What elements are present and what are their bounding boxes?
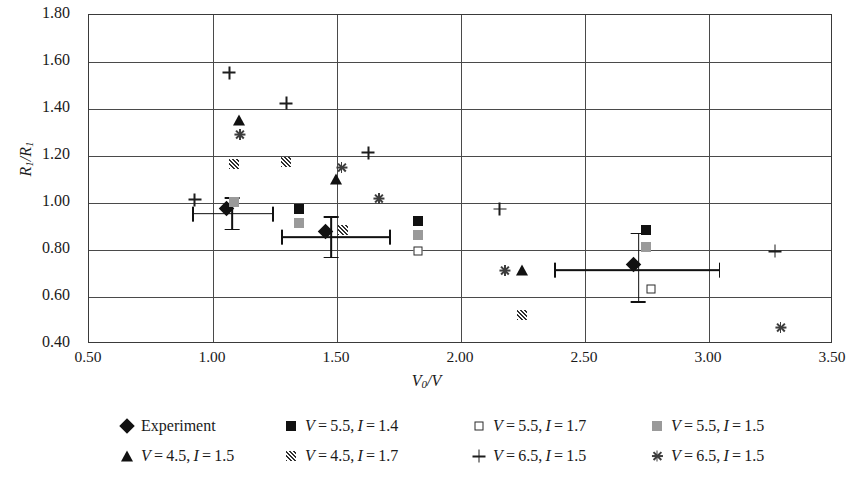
- legend-marker-filled-triangle-icon: [118, 449, 136, 463]
- data-point: [633, 265, 644, 276]
- data-point: [188, 193, 201, 206]
- data-point: [646, 284, 655, 293]
- x-axis-tick-label: 1.50: [301, 348, 371, 366]
- legend-item[interactable]: Experiment: [118, 414, 216, 436]
- legend-item[interactable]: V = 5.5, I = 1.4: [282, 414, 398, 436]
- legend-label: V = 5.5, I = 1.7: [493, 417, 586, 434]
- data-point: [229, 197, 239, 207]
- legend-label: V = 4.5, I = 1.7: [305, 447, 398, 464]
- data-point: [229, 159, 239, 169]
- data-point: [280, 97, 293, 110]
- x-axis-tick-label: 0.50: [53, 348, 123, 366]
- data-point: [493, 203, 506, 216]
- gridline-vertical: [461, 15, 462, 342]
- x-axis-title: V0/V: [0, 372, 853, 390]
- scatter-chart-figure: 1.801.601.401.201.000.800.600.40 0.501.0…: [0, 0, 853, 479]
- legend-item[interactable]: V = 5.5, I = 1.5: [648, 414, 764, 436]
- data-point: [281, 157, 291, 167]
- data-point: [338, 225, 348, 235]
- data-point: [517, 310, 527, 320]
- y-axis-tick-label: 0.60: [0, 286, 80, 304]
- gridline-horizontal: [89, 109, 831, 110]
- data-point: [413, 216, 423, 226]
- y-axis-tick-label: 1.80: [0, 4, 80, 22]
- y-axis-tick-label: 1.20: [0, 145, 80, 163]
- data-point: [330, 173, 342, 184]
- legend-item[interactable]: V = 4.5, I = 1.7: [282, 444, 398, 466]
- legend-marker-open-square-icon: [470, 419, 488, 433]
- x-axis-tick-label: 1.00: [177, 348, 247, 366]
- legend-marker-asterisk-icon: [648, 449, 666, 463]
- data-point: [413, 230, 423, 240]
- data-point: [326, 232, 337, 243]
- legend-marker-grey-square-icon: [648, 419, 666, 433]
- gridline-vertical: [709, 15, 710, 342]
- legend-label: V = 4.5, I = 1.5: [141, 447, 234, 464]
- gridline-vertical: [213, 15, 214, 342]
- legend-label: V = 5.5, I = 1.5: [671, 417, 764, 434]
- legend-marker-hatched-square-icon: [282, 449, 300, 463]
- plot-area: [88, 14, 832, 343]
- gridline-horizontal: [89, 156, 831, 157]
- data-point: [223, 66, 236, 79]
- data-point: [233, 114, 245, 125]
- legend-item[interactable]: V = 6.5, I = 1.5: [648, 444, 764, 466]
- legend-marker-plus-icon: [470, 449, 488, 463]
- legend-label: V = 6.5, I = 1.5: [671, 447, 764, 464]
- data-point: [641, 225, 651, 235]
- data-point: [362, 146, 375, 159]
- y-axis-tick-label: 1.60: [0, 51, 80, 69]
- gridline-horizontal: [89, 250, 831, 251]
- gridline-horizontal: [89, 297, 831, 298]
- gridline-horizontal: [89, 62, 831, 63]
- legend-marker-filled-diamond-icon: [118, 419, 136, 433]
- data-point: [294, 218, 304, 228]
- y-axis-tick-label: 1.40: [0, 98, 80, 116]
- gridline-vertical: [585, 15, 586, 342]
- x-axis-tick-label: 3.00: [673, 348, 743, 366]
- legend-item[interactable]: V = 6.5, I = 1.5: [470, 444, 586, 466]
- x-axis-tick-label: 2.00: [425, 348, 495, 366]
- legend-label: Experiment: [141, 417, 216, 434]
- data-point: [516, 265, 528, 276]
- legend-item[interactable]: V = 4.5, I = 1.5: [118, 444, 234, 466]
- x-axis-tick-label: 2.50: [549, 348, 619, 366]
- data-point: [226, 208, 237, 219]
- y-axis-tick-label: 0.80: [0, 239, 80, 257]
- legend-label: V = 6.5, I = 1.5: [493, 447, 586, 464]
- data-point: [413, 247, 422, 256]
- y-axis-tick-label: 1.00: [0, 192, 80, 210]
- data-point: [294, 204, 304, 214]
- legend-marker-filled-square-icon: [282, 419, 300, 433]
- x-axis-tick-label: 3.50: [797, 348, 853, 366]
- data-point: [641, 242, 651, 252]
- legend-item[interactable]: V = 5.5, I = 1.7: [470, 414, 586, 436]
- data-point: [768, 245, 781, 258]
- legend: ExperimentV = 5.5, I = 1.4V = 5.5, I = 1…: [0, 414, 853, 476]
- y-axis-title: R1/R1: [17, 119, 35, 199]
- legend-label: V = 5.5, I = 1.4: [305, 417, 398, 434]
